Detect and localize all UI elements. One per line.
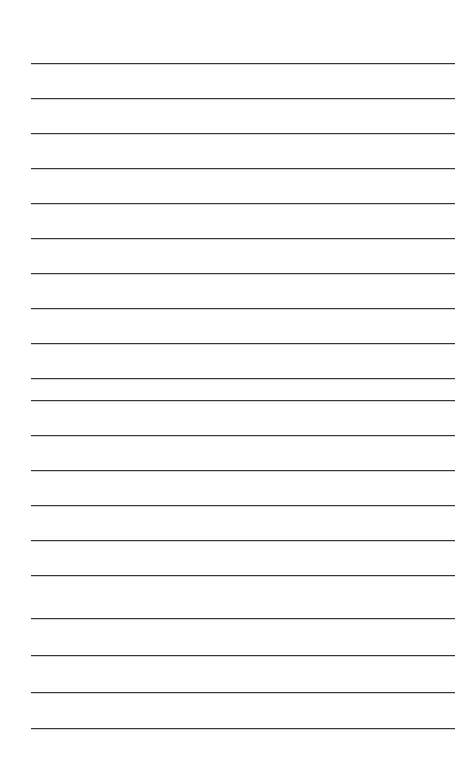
writing-rule-line[interactable] <box>31 400 455 401</box>
writing-rule-line[interactable] <box>31 655 455 656</box>
ruled-writing-area[interactable] <box>0 0 473 777</box>
writing-rule-line[interactable] <box>31 133 455 134</box>
lined-paper-page <box>0 0 473 777</box>
writing-rule-line[interactable] <box>31 575 455 576</box>
writing-rule-line[interactable] <box>31 505 455 506</box>
writing-rule-line[interactable] <box>31 273 455 274</box>
writing-rule-line[interactable] <box>31 98 455 99</box>
writing-rule-line[interactable] <box>31 728 455 729</box>
writing-rule-line[interactable] <box>31 435 455 436</box>
writing-rule-line[interactable] <box>31 308 455 309</box>
writing-rule-line[interactable] <box>31 63 455 64</box>
writing-rule-line[interactable] <box>31 378 455 379</box>
writing-rule-line[interactable] <box>31 203 455 204</box>
writing-rule-line[interactable] <box>31 618 455 619</box>
writing-rule-line[interactable] <box>31 692 455 693</box>
writing-rule-line[interactable] <box>31 168 455 169</box>
writing-rule-line[interactable] <box>31 470 455 471</box>
writing-rule-line[interactable] <box>31 540 455 541</box>
writing-rule-line[interactable] <box>31 343 455 344</box>
writing-rule-line[interactable] <box>31 238 455 239</box>
